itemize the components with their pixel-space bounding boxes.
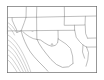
marker-west-icon[interactable] xyxy=(31,30,33,32)
map-canvas xyxy=(0,0,104,80)
marker-central-icon[interactable] xyxy=(51,43,53,45)
map-thumbnail[interactable]: Southwestern United States state boundar… xyxy=(0,0,104,80)
